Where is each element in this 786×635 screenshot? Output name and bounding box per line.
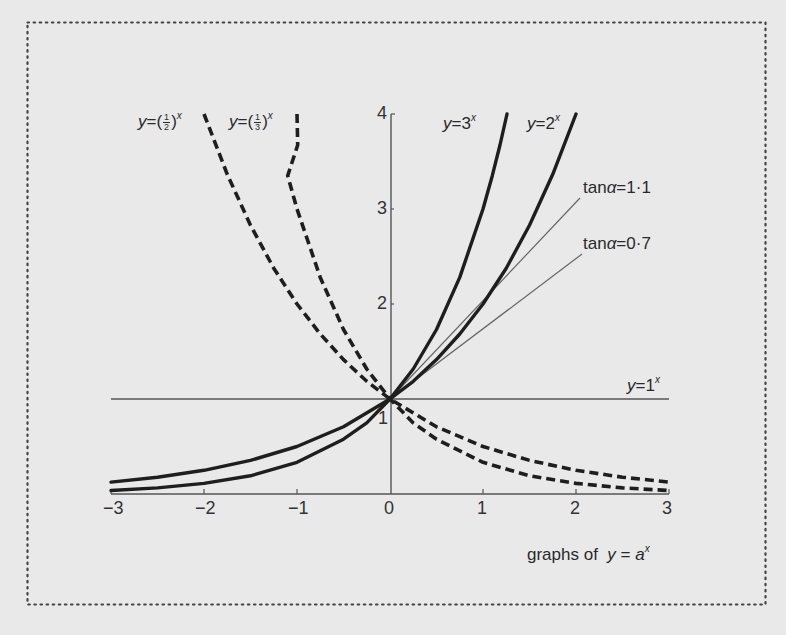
y-tick-label: 2 <box>377 293 387 314</box>
label-half-pow-x: y=(12)x <box>138 110 182 132</box>
curve-2-pow-x <box>111 114 576 482</box>
label-2-pow-x: y=2x <box>527 112 560 134</box>
label-eq: =2 <box>536 114 555 133</box>
label-eq: = <box>147 112 157 131</box>
y-tick-label: 3 <box>377 198 387 219</box>
x-axis-ticks <box>111 489 669 494</box>
label-paren: ( <box>156 112 162 131</box>
curve-3-pow-x <box>111 114 507 491</box>
y-tick-label: 4 <box>377 103 387 124</box>
label-tan-1-1: tanα=1·1 <box>583 178 651 198</box>
label-eq: =1 <box>636 376 655 395</box>
label-alpha: α <box>607 234 617 253</box>
x-tick-label: 3 <box>662 498 672 519</box>
label-var: y <box>138 112 147 131</box>
fraction-one-third: 13 <box>254 113 261 132</box>
curve-third-pow-x <box>288 114 669 491</box>
label-alpha: α <box>607 178 617 197</box>
x-tick-label: 0 <box>384 498 394 519</box>
label-var: y <box>627 376 636 395</box>
fraction-one-half: 12 <box>163 113 170 132</box>
frac-den: 2 <box>163 123 170 132</box>
x-tick-label: 2 <box>570 498 580 519</box>
x-tick-label: −1 <box>288 498 309 519</box>
caption-eq: = <box>621 545 631 564</box>
label-var: y <box>229 112 238 131</box>
label-paren: ( <box>247 112 253 131</box>
label-exp: x <box>555 112 560 123</box>
caption-prefix: graphs of <box>527 545 598 564</box>
label-exp: x <box>177 110 182 121</box>
x-tick-label: −2 <box>195 498 216 519</box>
label-eq: =3 <box>452 114 471 133</box>
curve-half-pow-x <box>204 114 669 482</box>
label-exp: x <box>471 112 476 123</box>
label-var: y <box>527 114 536 133</box>
label-1-pow-x: y=1x <box>627 374 660 396</box>
label-3-pow-x: y=3x <box>443 112 476 134</box>
label-value: =0·7 <box>616 234 651 253</box>
label-var: y <box>443 114 452 133</box>
label-tan: tan <box>583 234 607 253</box>
figure: −3 −2 −1 0 1 2 3 1 2 3 4 y=(12)x y=(13)x… <box>0 0 786 635</box>
label-exp: x <box>655 374 660 385</box>
x-tick-label: 1 <box>477 498 487 519</box>
chart-canvas <box>0 0 786 635</box>
label-tan: tan <box>583 178 607 197</box>
frac-den: 3 <box>254 123 261 132</box>
label-third-pow-x: y=(13)x <box>229 110 273 132</box>
caption-exp: x <box>645 543 650 554</box>
label-exp: x <box>268 110 273 121</box>
caption-var: y <box>607 545 616 564</box>
label-eq: = <box>238 112 248 131</box>
label-tan-0-7: tanα=0·7 <box>583 234 651 254</box>
label-value: =1·1 <box>616 178 651 197</box>
y-tick-label: 1 <box>378 408 388 429</box>
caption-base: a <box>635 545 644 564</box>
figure-caption: graphs of y = ax <box>527 543 650 565</box>
x-tick-label: −3 <box>103 498 124 519</box>
